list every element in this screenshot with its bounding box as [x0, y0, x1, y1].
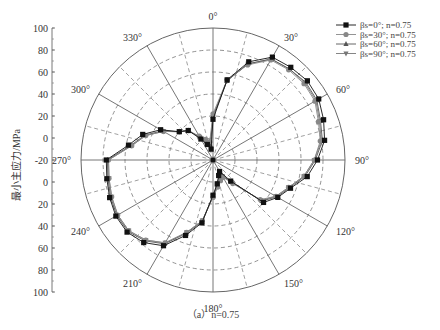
- square-marker: [261, 200, 266, 205]
- square-marker: [321, 117, 326, 122]
- axis-tick-label: -20: [35, 155, 48, 166]
- center-point: [211, 158, 216, 163]
- square-marker: [246, 59, 251, 64]
- square-marker: [177, 129, 182, 134]
- circle-marker: [343, 32, 348, 37]
- square-marker: [161, 243, 166, 248]
- angle-label: 60°: [336, 84, 350, 95]
- axis-tick-label: 100: [33, 23, 48, 34]
- grid-spoke: [85, 126, 213, 160]
- legend-entry: βs=90°; n=0.75: [360, 49, 416, 59]
- grid-spoke: [99, 94, 213, 160]
- square-marker: [228, 178, 233, 183]
- figure-caption: （a）n=0.75: [187, 309, 240, 320]
- square-marker: [183, 233, 188, 238]
- square-marker: [104, 176, 109, 181]
- legend-entry: βs=30°; n=0.75: [360, 30, 416, 40]
- square-marker: [215, 181, 220, 186]
- square-marker: [288, 186, 293, 191]
- square-marker: [210, 193, 215, 198]
- axis-tick-label: 20: [38, 111, 48, 122]
- square-marker: [198, 136, 203, 141]
- circle-marker: [316, 119, 321, 124]
- grid-spoke: [213, 160, 306, 253]
- angle-label: 150°: [284, 278, 303, 289]
- square-marker: [199, 220, 204, 225]
- axis-tick-label: 80: [38, 45, 48, 56]
- axis-tick-label: 0: [43, 133, 48, 144]
- square-marker: [186, 128, 191, 133]
- angle-label: 90°: [355, 155, 369, 166]
- square-marker: [107, 195, 112, 200]
- axis-tick-label: 60: [38, 243, 48, 254]
- grid-spoke: [213, 94, 327, 160]
- axis-tick-label: 40: [38, 89, 48, 100]
- axis-tick-label: 100: [33, 287, 48, 298]
- triangle-up-marker: [343, 41, 348, 46]
- axis-tick-label: 20: [38, 199, 48, 210]
- square-marker: [305, 78, 310, 83]
- square-marker: [343, 22, 348, 27]
- square-marker: [210, 117, 215, 122]
- grid-spoke: [147, 160, 213, 274]
- grid-spoke: [213, 160, 327, 226]
- axis-tick-label: 0: [43, 177, 48, 188]
- axis-tick-label: 40: [38, 221, 48, 232]
- axis-tick-label: 60: [38, 67, 48, 78]
- square-marker: [113, 214, 118, 219]
- axis-tick-label: 80: [38, 265, 48, 276]
- square-marker: [208, 147, 213, 152]
- grid-spoke: [147, 46, 213, 160]
- legend-entry: βs=0°; n=0.75: [360, 20, 412, 30]
- square-marker: [216, 173, 221, 178]
- square-marker: [316, 96, 321, 101]
- legend-entry: βs=60°; n=0.75: [360, 39, 416, 49]
- legend: βs=0°; n=0.75βs=30°; n=0.75βs=60°; n=0.7…: [336, 20, 416, 59]
- angle-label: 30°: [284, 32, 298, 43]
- angle-label: 210°: [123, 278, 142, 289]
- square-marker: [288, 65, 293, 70]
- angle-label: 0°: [209, 11, 218, 22]
- angle-label: 240°: [71, 226, 90, 237]
- square-marker: [322, 138, 327, 143]
- square-marker: [141, 240, 146, 245]
- angle-label: 120°: [336, 226, 355, 237]
- grid-spoke: [120, 160, 213, 253]
- angle-label: 270°: [52, 155, 71, 166]
- square-marker: [205, 142, 210, 147]
- square-marker: [104, 157, 109, 162]
- angle-label: 300°: [71, 84, 90, 95]
- square-marker: [124, 230, 129, 235]
- y-axis-label: 最小主应力/MPa: [10, 129, 22, 201]
- square-marker: [315, 157, 320, 162]
- square-marker: [270, 55, 275, 60]
- square-marker: [140, 132, 145, 137]
- triangle-down-marker: [343, 51, 348, 56]
- square-marker: [126, 143, 131, 148]
- square-marker: [225, 77, 230, 82]
- square-marker: [158, 127, 163, 132]
- square-marker: [305, 174, 310, 179]
- square-marker: [275, 195, 280, 200]
- polar-chart: 100806040200-20020406080100 0°30°60°90°1…: [0, 0, 440, 330]
- angle-label: 330°: [123, 32, 142, 43]
